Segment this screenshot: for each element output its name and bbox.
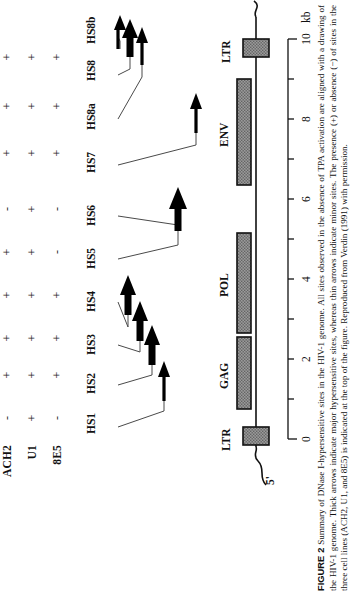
- hs-label-hs5: HS5: [84, 248, 98, 269]
- figure-stage: ACH2 - + + + + - + + + U1 + + + + + + + …: [0, 0, 358, 597]
- leader-hs3: [118, 341, 140, 352]
- leader-hs5: [118, 231, 178, 259]
- gene-box-gag: [237, 337, 251, 409]
- sign-cell: -: [50, 202, 64, 216]
- tick-label-4: 4: [300, 269, 313, 289]
- hs-arrows-and-leaders: [104, 0, 216, 597]
- tick-label-0: 0: [300, 429, 313, 449]
- sign-cell: +: [25, 331, 39, 345]
- gene-box-ltr-3: [243, 39, 269, 57]
- sign-cell: +: [50, 99, 64, 113]
- leader-hs8: [118, 57, 130, 75]
- row-label-ach2: ACH2: [0, 445, 14, 491]
- sign-cell: +: [25, 50, 39, 64]
- hs-site-labels: HS1 HS2 HS3 HS4 HS5 HS6 HS7 HS8a HS8 HS8…: [84, 0, 106, 597]
- figure-caption: FIGURE 2 Summary of DNase I-hypersensiti…: [316, 5, 351, 591]
- table-row: ACH2 - + + + + - + + +: [0, 0, 24, 597]
- sign-cell: +: [25, 368, 39, 382]
- tick-label-2: 2: [300, 349, 313, 369]
- sign-cell: +: [25, 99, 39, 113]
- hs-label-hs3: HS3: [84, 334, 98, 355]
- figure-number-label: FIGURE 2: [316, 548, 326, 591]
- flanking-dna-3prime: [254, 1, 257, 17]
- sign-cell: +: [0, 99, 14, 113]
- hiv1-genome-drawing: 5' LTR GAG POL ENV LTR: [214, 0, 284, 597]
- leader-hs1: [118, 401, 164, 427]
- sign-cell: +: [50, 50, 64, 64]
- sign-cell: +: [25, 245, 39, 259]
- hs-label-hs6: HS6: [84, 205, 98, 226]
- sign-cell: +: [0, 146, 14, 160]
- row-label-u1: U1: [25, 445, 39, 491]
- sign-cell: -: [0, 202, 14, 216]
- gene-box-ltr-5: [243, 427, 269, 445]
- gene-label-pol: POL: [218, 273, 231, 297]
- hs-arrow-thick-hs3: [132, 301, 148, 341]
- sign-cell: -: [50, 245, 64, 259]
- hs-label-hs8a: HS8a: [84, 103, 98, 130]
- kb-scale-bar: 0 2 4 6 8 10 kb: [286, 0, 316, 597]
- sign-cell: +: [25, 202, 39, 216]
- hs-label-hs2: HS2: [84, 373, 98, 394]
- sign-cell: +: [0, 368, 14, 382]
- figure-caption-text: Summary of DNase I-hypersensitive sites …: [316, 5, 349, 591]
- sign-cell: +: [25, 411, 39, 425]
- leader-hs7: [118, 133, 196, 165]
- gene-label-ltr-3: LTR: [220, 40, 233, 63]
- sign-cell: +: [25, 288, 39, 302]
- five-prime-label: 5': [264, 476, 277, 485]
- sign-cell: +: [50, 368, 64, 382]
- sign-cell: +: [50, 331, 64, 345]
- tick-label-8: 8: [300, 109, 313, 129]
- tick-label-6: 6: [300, 189, 313, 209]
- hs-arrow-thin-hs1: [158, 361, 170, 401]
- leader-hs2: [118, 365, 152, 385]
- hs-label-hs7: HS7: [84, 152, 98, 173]
- table-row: 8E5 - + + + - - + + +: [50, 0, 74, 597]
- gene-label-gag: GAG: [218, 363, 231, 389]
- sign-cell: +: [25, 146, 39, 160]
- hs-arrow-thick-hs2: [144, 325, 160, 365]
- gene-label-ltr-5: LTR: [220, 428, 233, 451]
- table-row: U1 + + + + + + + + +: [25, 0, 49, 597]
- kb-unit-label: kb: [300, 12, 313, 24]
- hs-label-hs4: HS4: [84, 291, 98, 312]
- hs-label-hs8b: HS8b: [84, 17, 98, 45]
- tick-label-10: 10: [300, 29, 313, 49]
- gene-box-env: [237, 79, 251, 185]
- sign-cell: -: [50, 411, 64, 425]
- row-label-8e5: 8E5: [50, 445, 64, 491]
- gene-box-pol: [237, 233, 251, 333]
- hs-arrow-thick-hs8: [122, 19, 138, 57]
- sign-cell: -: [0, 411, 14, 425]
- hs-label-hs8: HS8: [84, 60, 98, 81]
- sign-cell: +: [50, 146, 64, 160]
- sign-cell: +: [50, 288, 64, 302]
- sign-cell: +: [0, 245, 14, 259]
- hs-arrow-thin-hs8a: [136, 27, 148, 65]
- presence-absence-matrix: ACH2 - + + + + - + + + U1 + + + + + + + …: [0, 0, 78, 597]
- hs-label-hs1: HS1: [84, 413, 98, 434]
- hs-arrow-thin-hs7: [190, 93, 202, 133]
- hs-arrow-thick-hs4: [120, 275, 136, 315]
- leader-hs6: [118, 216, 178, 225]
- gene-label-env: ENV: [218, 123, 231, 147]
- sign-cell: +: [0, 50, 14, 64]
- sign-cell: +: [0, 288, 14, 302]
- sign-cell: +: [0, 331, 14, 345]
